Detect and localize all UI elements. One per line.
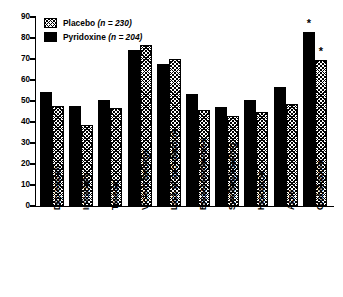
bar-group [98, 17, 122, 206]
x-axis-label: Swelling/bloating [229, 143, 237, 210]
x-axis-label: Acne [288, 190, 296, 210]
y-axis-tick-label: 80 [2, 34, 30, 42]
y-axis-tick-label: 20 [2, 160, 30, 168]
bar-pyridoxine [128, 50, 140, 206]
y-axis-labels: 0102030405060708090 [0, 0, 30, 297]
bar-pyridoxine [244, 100, 256, 206]
bar-pyridoxine [215, 107, 227, 206]
bar-pyridoxine [98, 100, 110, 206]
significance-asterisk: * [303, 18, 315, 29]
legend-label-pyridoxine: Pyridoxine (n = 204) [63, 33, 142, 41]
x-axis-label: Depression [54, 165, 62, 210]
x-axis-label: Violent feelings [142, 150, 150, 210]
y-axis-tick-label: 70 [2, 55, 30, 63]
legend-swatch-placebo [44, 18, 57, 28]
y-axis-tick-label: 30 [2, 139, 30, 147]
bar-group [274, 17, 298, 206]
legend-item-placebo: Placebo (n = 230) [44, 18, 142, 28]
x-axis-label: Global score [317, 160, 325, 210]
legend-n-placebo: (n = 230) [97, 18, 131, 28]
bar-pyridoxine [157, 64, 169, 206]
legend-swatch-pyridoxine [44, 32, 57, 42]
legend-item-pyridoxine: Pyridoxine (n = 204) [44, 32, 142, 42]
plot-area: ** [36, 17, 334, 206]
legend-label-placebo: Placebo (n = 230) [63, 19, 132, 27]
chart-legend: Placebo (n = 230) Pyridoxine (n = 204) [44, 18, 142, 42]
x-axis-label: Irritability [83, 173, 91, 210]
y-axis-tick-label: 60 [2, 76, 30, 84]
x-axis-label: Lack of coordination [171, 129, 179, 210]
y-axis-tick-label: 50 [2, 97, 30, 105]
bar-pyridoxine [186, 94, 198, 206]
significance-asterisk: * [315, 46, 327, 57]
y-axis-tick-label: 10 [2, 181, 30, 189]
legend-n-pyridoxine: (n = 204) [108, 32, 142, 42]
bar-pyridoxine [40, 92, 52, 206]
bar-chart: 0102030405060708090 ** DepressionIrritab… [0, 0, 343, 297]
bar-pyridoxine [69, 106, 81, 206]
y-axis-tick-label: 90 [2, 13, 30, 21]
x-axis-label: Breast tenderness [200, 139, 208, 210]
bar-pyridoxine [303, 32, 315, 206]
y-axis-tick-label: 40 [2, 118, 30, 126]
bar-pyridoxine [274, 87, 286, 206]
y-axis-tick-label: 0 [2, 202, 30, 210]
x-axis-label: Headache [258, 171, 266, 210]
x-axis-label: Tension [112, 179, 120, 210]
